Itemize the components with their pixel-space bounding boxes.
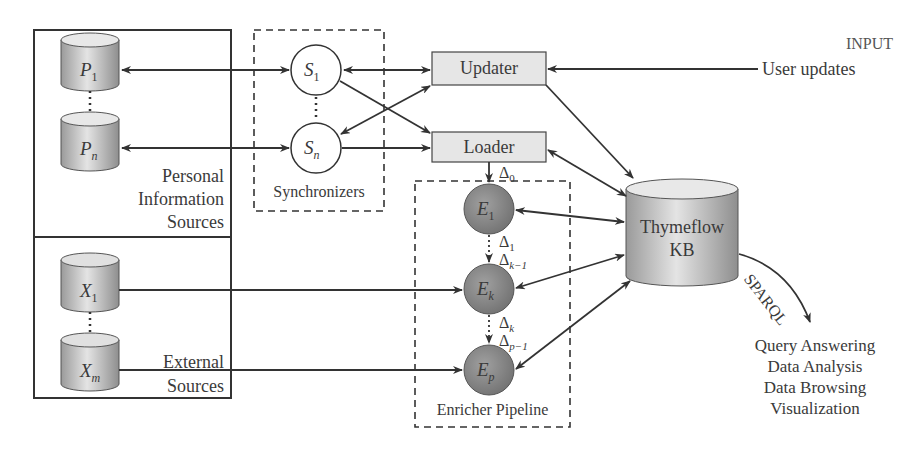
- sn-base: S: [304, 137, 314, 158]
- personal-line-3: Sources: [120, 211, 224, 234]
- delta-k-minus-1-sub: k−1: [509, 259, 527, 271]
- delta-0-sub: 0: [509, 172, 515, 184]
- pn-sub: n: [92, 149, 98, 163]
- synchronizers-label: Synchronizers: [256, 182, 382, 202]
- delta-p-minus-1: Δp−1: [499, 331, 528, 356]
- personal-line-1: Personal: [120, 165, 224, 188]
- label-ep: Ep: [477, 360, 495, 387]
- xm-base: X: [80, 360, 92, 381]
- input-title: INPUT: [760, 34, 905, 54]
- delta-0: Δ0: [499, 163, 515, 188]
- ep-base: E: [477, 359, 489, 380]
- output-visualization: Visualization: [735, 398, 895, 419]
- pn-base: P: [80, 138, 92, 159]
- arrow-s1-loader: [340, 81, 430, 133]
- delta-k-minus-1: Δk−1: [499, 250, 527, 275]
- delta-p-minus-1-sub: p−1: [509, 340, 527, 352]
- kb-line-2: KB: [626, 239, 738, 262]
- s1-sub: 1: [314, 70, 320, 84]
- external-line-2: Sources: [120, 374, 224, 398]
- kb-label: Thymeflow KB: [626, 216, 738, 262]
- output-query-answering: Query Answering: [735, 335, 895, 356]
- x1-base: X: [80, 280, 92, 301]
- updater-label: Updater: [432, 58, 546, 78]
- arrow-ep-kb: [516, 281, 630, 369]
- kb-line-1: Thymeflow: [626, 216, 738, 239]
- sn-sub: n: [314, 148, 320, 162]
- outputs-list: Query Answering Data Analysis Data Brows…: [735, 335, 895, 419]
- input-label: User updates: [762, 59, 855, 79]
- label-sn: Sn: [304, 138, 320, 165]
- ek-sub: k: [489, 289, 494, 303]
- delta-1-base: Δ: [499, 233, 509, 250]
- label-s1: S1: [304, 60, 320, 87]
- personal-sources-label: Personal Information Sources: [120, 165, 224, 234]
- label-e1: E1: [477, 199, 495, 226]
- xm-sub: m: [92, 371, 101, 385]
- x1-sub: 1: [92, 291, 98, 305]
- external-line-1: External: [120, 350, 224, 374]
- p1-sub: 1: [92, 70, 98, 84]
- loader-label: Loader: [432, 137, 546, 157]
- arrow-sn-updater: [341, 86, 430, 134]
- input-title-text: INPUT: [846, 35, 893, 52]
- output-data-browsing: Data Browsing: [735, 377, 895, 398]
- delta-k-base: Δ: [499, 314, 509, 331]
- delta-p-minus-1-base: Δ: [499, 332, 509, 349]
- ek-base: E: [477, 278, 489, 299]
- e1-sub: 1: [489, 209, 495, 223]
- label-p1: P1: [80, 60, 98, 87]
- delta-k-minus-1-base: Δ: [499, 251, 509, 268]
- ep-sub: p: [489, 370, 495, 384]
- label-xm: Xm: [80, 361, 100, 388]
- output-data-analysis: Data Analysis: [735, 356, 895, 377]
- enricher-pipeline-label: Enricher Pipeline: [417, 400, 568, 420]
- label-ek: Ek: [477, 279, 494, 306]
- external-sources-label: External Sources: [120, 350, 224, 398]
- e1-base: E: [477, 198, 489, 219]
- label-pn: Pn: [80, 139, 98, 166]
- label-x1: X1: [80, 281, 98, 308]
- delta-0-base: Δ: [499, 164, 509, 181]
- arrow-updater-kb: [546, 85, 633, 178]
- personal-line-2: Information: [120, 188, 224, 211]
- p1-base: P: [80, 59, 92, 80]
- s1-base: S: [304, 59, 314, 80]
